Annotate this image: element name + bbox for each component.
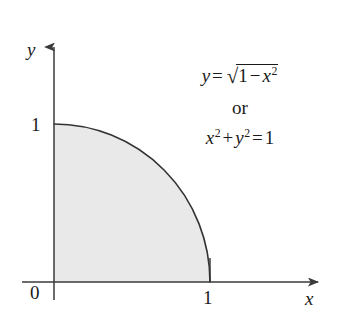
equation-primary: y=√1−x2 xyxy=(150,64,330,86)
y-tick-label-1: 1 xyxy=(31,115,41,134)
alt-plus-sign: + xyxy=(221,127,236,148)
equation-equals-sign: = xyxy=(210,65,225,86)
equation-annotation: y=√1−x2 or x2+y2=1 xyxy=(150,64,330,147)
equation-connector: or xyxy=(150,98,330,117)
plot-canvas xyxy=(0,0,343,331)
radicand-exponent: 2 xyxy=(271,65,277,78)
equation-alternate: x2+y2=1 xyxy=(150,128,330,147)
alt-equals-sign: = xyxy=(250,127,265,148)
x-axis-label: x xyxy=(305,289,313,308)
radical-expression: √1−x2 xyxy=(225,64,279,86)
x-tick-label-1: 1 xyxy=(203,288,213,307)
radicand-number: 1 xyxy=(238,65,248,86)
math-figure: y x 0 1 1 y=√1−x2 or x2+y2=1 xyxy=(0,0,343,331)
alt-rhs-value: 1 xyxy=(265,127,275,148)
radicand: 1−x2 xyxy=(236,64,278,85)
shaded-region xyxy=(54,124,210,282)
equation-lhs-variable: y xyxy=(202,65,210,86)
origin-tick-label: 0 xyxy=(30,283,40,302)
radical-sign-icon: √ xyxy=(227,64,239,88)
radicand-variable: x xyxy=(263,65,271,86)
alt-term2-variable: y xyxy=(235,127,243,148)
alt-term1-variable: x xyxy=(206,127,214,148)
radicand-minus-sign: − xyxy=(248,65,263,86)
alt-term1-exponent: 2 xyxy=(214,127,220,140)
y-axis-label: y xyxy=(27,40,35,59)
